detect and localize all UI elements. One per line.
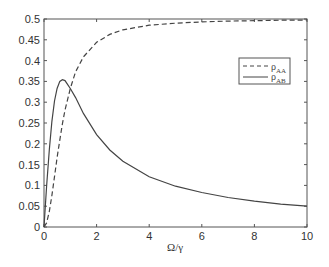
x-tick-label: 6 <box>199 230 205 242</box>
plot-frame <box>44 19 307 227</box>
y-tick-label: 0.15 <box>19 159 40 171</box>
y-tick-label: 0.35 <box>19 75 40 87</box>
x-axis-label: Ω/γ <box>167 241 183 253</box>
y-tick-label: 0.5 <box>25 13 40 25</box>
y-axis-ticks: 00.050.10.150.20.250.30.350.40.450.5 <box>19 13 307 233</box>
series-lines <box>44 20 307 227</box>
series-dashed-line <box>44 20 307 227</box>
y-tick-label: 0.1 <box>25 179 40 191</box>
series-solid-line <box>44 80 307 227</box>
x-tick-label: 8 <box>251 230 257 242</box>
y-tick-label: 0.2 <box>25 138 40 150</box>
x-tick-label: 0 <box>41 230 47 242</box>
x-tick-label: 4 <box>146 230 152 242</box>
line-chart: 0246810 00.050.10.150.20.250.30.350.40.4… <box>0 0 329 267</box>
y-tick-label: 0.4 <box>25 55 40 67</box>
y-tick-label: 0.05 <box>19 200 40 212</box>
x-axis-ticks: 0246810 <box>41 19 313 242</box>
legend: ρAA ρAB <box>239 58 290 85</box>
y-tick-label: 0.25 <box>19 117 40 129</box>
x-tick-label: 10 <box>301 230 313 242</box>
y-tick-label: 0.45 <box>19 34 40 46</box>
y-tick-label: 0 <box>34 221 40 233</box>
y-tick-label: 0.3 <box>25 96 40 108</box>
x-tick-label: 2 <box>94 230 100 242</box>
